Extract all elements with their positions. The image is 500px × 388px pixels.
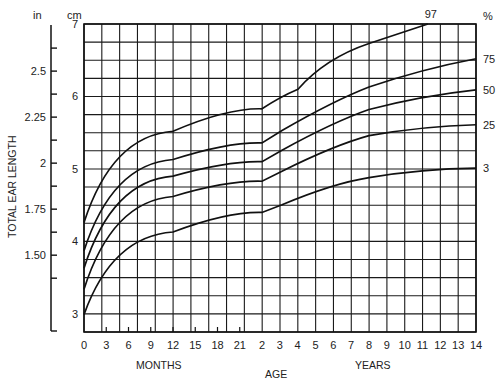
year-tick-label: 5 (312, 339, 318, 351)
inch-tick-label: 2.25 (25, 111, 46, 123)
month-tick-label: 12 (167, 339, 179, 351)
percentile-label-50: 50 (483, 84, 495, 96)
year-tick-label: 13 (452, 339, 464, 351)
chart-grid (84, 24, 476, 332)
inch-unit-label: in (33, 9, 42, 21)
year-tick-label: 10 (399, 339, 411, 351)
year-tick-label: 6 (330, 339, 336, 351)
month-tick-label: 0 (81, 339, 87, 351)
month-tick-label: 9 (148, 339, 154, 351)
percentile-label-25: 25 (483, 119, 495, 131)
month-tick-label: 6 (125, 339, 131, 351)
x-axis-title-age: AGE (265, 368, 287, 380)
x-axis-title-months: MONTHS (136, 359, 182, 371)
year-tick-label: 14 (470, 339, 482, 351)
year-tick-label: 9 (384, 339, 390, 351)
y-axis-title: TOTAL EAR LENGTH (6, 136, 18, 239)
x-axis-title-years: YEARS (355, 359, 391, 371)
inch-tick-label: 2.5 (31, 65, 46, 77)
cm-axis-labels: 34567 (72, 18, 78, 320)
year-tick-label: 12 (434, 339, 446, 351)
inch-tick-label: 1.50 (25, 249, 46, 261)
inch-axis-ticks: 1.501.7522.252.5 (25, 48, 57, 331)
percentile-label-97: 97 (425, 8, 437, 20)
year-tick-label: 11 (417, 339, 428, 351)
year-tick-label: 7 (348, 339, 354, 351)
month-tick-label: 3 (103, 339, 109, 351)
year-tick-label: 4 (295, 339, 301, 351)
percentile-label-75: 75 (483, 53, 495, 65)
cm-tick-label: 3 (72, 308, 78, 320)
cm-tick-label: 5 (72, 163, 78, 175)
x-axis-labels: 036912151821234567891011121314 (81, 339, 482, 351)
percentile-label-3: 3 (483, 162, 489, 174)
year-tick-label: 3 (277, 339, 283, 351)
inch-tick-label: 2 (40, 157, 46, 169)
ear-length-growth-chart: 1.501.7522.252.5 in cm % 34567 036912151… (0, 0, 500, 388)
year-tick-label: 2 (259, 339, 265, 351)
month-tick-label: 15 (189, 339, 201, 351)
inch-tick-label: 1.75 (25, 203, 46, 215)
percentile-curve-97 (84, 24, 428, 223)
month-tick-label: 18 (211, 339, 223, 351)
percent-unit-label: % (483, 10, 493, 22)
cm-tick-label: 6 (72, 90, 78, 102)
month-tick-label: 21 (234, 339, 246, 351)
cm-tick-label: 7 (72, 18, 78, 30)
year-tick-label: 8 (366, 339, 372, 351)
cm-tick-label: 4 (72, 235, 78, 247)
